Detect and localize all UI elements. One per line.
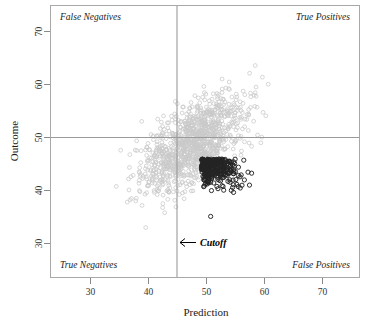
quadrant-label-false-negatives: False Negatives: [59, 12, 121, 22]
quadrant-label-true-positives: True Positives: [296, 12, 350, 22]
y-tick-label-70: 70: [34, 27, 44, 37]
x-tick-label-40: 40: [144, 287, 154, 297]
y-tick-label-50: 50: [34, 133, 44, 143]
x-tick-label-50: 50: [202, 287, 212, 297]
x-tick-label-30: 30: [86, 287, 96, 297]
x-tick-label-60: 60: [260, 287, 270, 297]
plot-svg: 70 60 50 40 30 Outcome 30 40 50 60 70 Pr…: [0, 0, 369, 323]
quadrant-label-true-negatives: True Negatives: [60, 260, 118, 270]
y-axis-title: Outcome: [8, 121, 20, 161]
quadrant-label-false-positives: False Positives: [291, 260, 350, 270]
y-tick-label-60: 60: [34, 80, 44, 90]
y-tick-label-30: 30: [34, 239, 44, 249]
x-tick-label-70: 70: [318, 287, 328, 297]
cutoff-label: Cutoff: [200, 237, 228, 248]
x-axis-title: Prediction: [183, 306, 229, 318]
y-tick-label-40: 40: [34, 186, 44, 196]
scatter-plot-figure: 70 60 50 40 30 Outcome 30 40 50 60 70 Pr…: [0, 0, 369, 323]
